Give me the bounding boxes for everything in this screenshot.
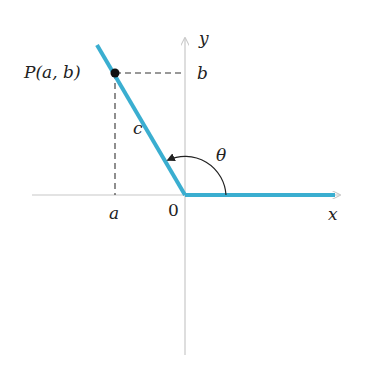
diagram-graphics xyxy=(0,0,369,376)
label-origin: 0 xyxy=(168,202,179,219)
point-p xyxy=(111,69,120,78)
label-y-axis: y xyxy=(199,30,209,47)
label-c: c xyxy=(133,120,143,137)
label-a: a xyxy=(109,205,119,222)
label-theta: θ xyxy=(216,147,226,164)
label-b: b xyxy=(197,65,208,82)
diagram-canvas: P(a, b) b y x c θ a 0 xyxy=(0,0,369,376)
label-point-p: P(a, b) xyxy=(24,64,81,81)
label-x-axis: x xyxy=(328,206,338,223)
